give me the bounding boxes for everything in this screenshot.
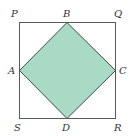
geometry-diagram: P B Q A C S D R [0,0,131,136]
label-p: P [10,8,18,19]
label-s: S [14,122,21,133]
label-b: B [62,8,70,19]
label-q: Q [114,8,122,19]
label-d: D [61,122,70,133]
label-a: A [7,65,15,76]
label-r: R [113,122,122,133]
inner-square-abcd [20,23,116,119]
label-c: C [119,65,127,76]
